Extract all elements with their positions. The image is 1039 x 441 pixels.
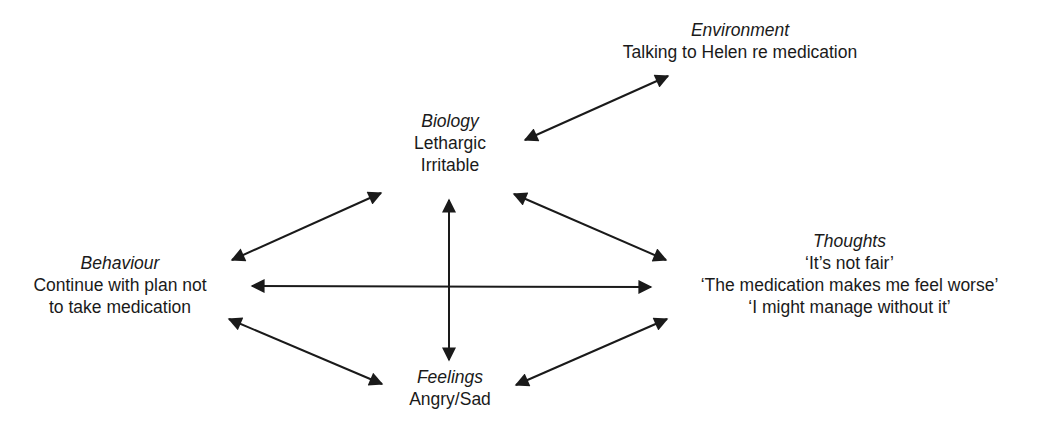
environment-title: Environment: [580, 19, 900, 41]
arrow-behaviour-feelings: [229, 319, 382, 384]
environment-node: Environment Talking to Helen re medicati…: [580, 19, 900, 63]
biology-line: Lethargic: [370, 132, 530, 154]
biology-node: Biology Lethargic Irritable: [370, 110, 530, 176]
thoughts-title: Thoughts: [660, 230, 1039, 252]
thoughts-line: ‘The medication makes me feel worse’: [660, 274, 1039, 296]
arrow-biology-thoughts: [514, 194, 666, 260]
environment-line: Talking to Helen re medication: [580, 41, 900, 63]
biology-title: Biology: [370, 110, 530, 132]
behaviour-line: Continue with plan not: [0, 274, 240, 296]
feelings-line: Angry/Sad: [380, 388, 520, 410]
behaviour-node: Behaviour Continue with plan not to take…: [0, 252, 240, 318]
thoughts-line: ‘It’s not fair’: [660, 252, 1039, 274]
arrow-biology-behaviour: [232, 193, 381, 260]
feelings-title: Feelings: [380, 366, 520, 388]
arrow-biology-environment: [525, 76, 668, 140]
behaviour-title: Behaviour: [0, 252, 240, 274]
behaviour-line: to take medication: [0, 296, 240, 318]
arrow-behaviour-thoughts: [252, 286, 651, 287]
feelings-node: Feelings Angry/Sad: [380, 366, 520, 410]
thoughts-node: Thoughts ‘It’s not fair’ ‘The medication…: [660, 230, 1039, 318]
biology-line: Irritable: [370, 154, 530, 176]
arrow-thoughts-feelings: [516, 319, 667, 385]
thoughts-line: ‘I might manage without it’: [660, 296, 1039, 318]
